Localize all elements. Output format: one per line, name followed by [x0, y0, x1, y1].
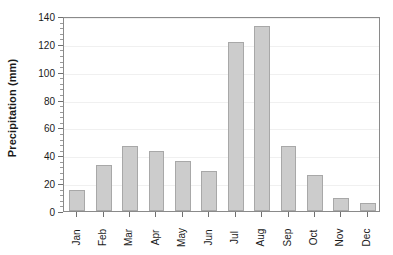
y-axis-title: Precipitation (mm): [4, 0, 20, 215]
y-tick-minor: [60, 117, 63, 118]
bar: [122, 146, 138, 211]
x-tick-label-text: Oct: [308, 230, 319, 246]
y-tick-minor: [60, 50, 63, 51]
x-tick: [340, 212, 341, 217]
x-tick: [235, 212, 236, 217]
x-tick-label-text: Dec: [361, 229, 372, 247]
y-tick-minor: [60, 167, 63, 168]
x-tick: [103, 212, 104, 217]
bar: [307, 175, 323, 211]
y-tick-minor: [60, 145, 63, 146]
y-tick-minor: [60, 134, 63, 135]
x-tick-label-text: Aug: [256, 229, 267, 247]
y-tick-major: [58, 184, 63, 185]
y-tick-minor: [60, 201, 63, 202]
y-tick-major: [58, 17, 63, 18]
y-tick-label: 80: [44, 95, 55, 106]
precipitation-bar-chart: Precipitation (mm) 020406080100120140 Ja…: [0, 0, 393, 255]
bar: [175, 161, 191, 211]
x-tick: [129, 212, 130, 217]
y-tick-label: 100: [38, 67, 55, 78]
x-tick: [155, 212, 156, 217]
y-tick-major: [58, 128, 63, 129]
x-tick: [182, 212, 183, 217]
bar: [96, 165, 112, 211]
y-tick-minor: [60, 56, 63, 57]
y-tick-label: 120: [38, 39, 55, 50]
y-tick-minor: [60, 123, 63, 124]
x-tick: [367, 212, 368, 217]
bar: [201, 171, 217, 211]
y-tick-label: 40: [44, 151, 55, 162]
y-tick-minor: [60, 140, 63, 141]
y-tick-label: 20: [44, 179, 55, 190]
x-tick: [261, 212, 262, 217]
x-tick-label-text: Apr: [150, 230, 161, 246]
y-tick-label: 60: [44, 123, 55, 134]
x-tick: [208, 212, 209, 217]
bar: [149, 151, 165, 211]
y-tick-label: 140: [38, 12, 55, 23]
bars-layer: [64, 18, 379, 211]
y-tick-minor: [60, 195, 63, 196]
bar: [69, 190, 85, 211]
x-tick: [288, 212, 289, 217]
y-tick-minor: [60, 151, 63, 152]
y-tick-major: [58, 156, 63, 157]
bar: [281, 146, 297, 211]
y-tick-label: 0: [49, 207, 55, 218]
bar: [333, 198, 349, 211]
y-tick-minor: [60, 89, 63, 90]
y-tick-minor: [60, 106, 63, 107]
y-tick-minor: [60, 190, 63, 191]
x-tick: [314, 212, 315, 217]
x-tick-label-text: May: [176, 228, 187, 247]
y-tick-minor: [60, 78, 63, 79]
x-tick-label-text: Jul: [229, 231, 240, 244]
y-tick-major: [58, 101, 63, 102]
y-tick-minor: [60, 39, 63, 40]
plot-area: [63, 17, 380, 212]
bar: [360, 203, 376, 211]
y-tick-minor: [60, 67, 63, 68]
y-axis-title-text: Precipitation (mm): [6, 58, 18, 156]
y-tick-major: [58, 45, 63, 46]
x-tick-label-text: Jun: [203, 229, 214, 245]
y-tick-minor: [60, 112, 63, 113]
x-tick-label-text: Jan: [71, 229, 82, 245]
x-tick-label-text: Feb: [97, 229, 108, 246]
bar: [254, 26, 270, 211]
x-tick-label-text: Sep: [282, 229, 293, 247]
x-tick-label-text: Mar: [124, 229, 135, 246]
bar: [228, 42, 244, 211]
y-tick-minor: [60, 162, 63, 163]
y-tick-minor: [60, 95, 63, 96]
y-tick-minor: [60, 28, 63, 29]
y-tick-minor: [60, 84, 63, 85]
y-tick-minor: [60, 62, 63, 63]
y-tick-major: [58, 73, 63, 74]
y-tick-minor: [60, 173, 63, 174]
y-tick-minor: [60, 179, 63, 180]
y-tick-minor: [60, 34, 63, 35]
y-tick-minor: [60, 23, 63, 24]
y-tick-minor: [60, 206, 63, 207]
x-tick-label-text: Nov: [335, 229, 346, 247]
x-tick-label: Dec: [350, 218, 384, 252]
x-tick: [76, 212, 77, 217]
x-axis-labels: JanFebMarAprMayJunJulAugSepOctNovDec: [63, 218, 380, 255]
